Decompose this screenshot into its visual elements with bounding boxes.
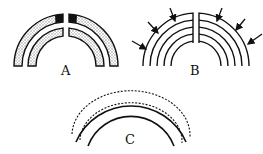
panel-c-label: C: [125, 133, 135, 146]
diagram-figure: A B C: [0, 0, 263, 154]
panel-b-label: B: [190, 64, 200, 77]
diagram-canvas: [0, 0, 263, 154]
arrow-icon: [132, 41, 146, 49]
arrow-icon: [148, 22, 158, 33]
panel-b-arcs: [143, 13, 249, 66]
arrow-icon: [236, 19, 245, 30]
panel-a-label: A: [61, 64, 70, 77]
panel-b-arrows: [132, 8, 262, 49]
arrow-icon: [248, 34, 262, 44]
panel-a-arcs: [14, 14, 118, 66]
